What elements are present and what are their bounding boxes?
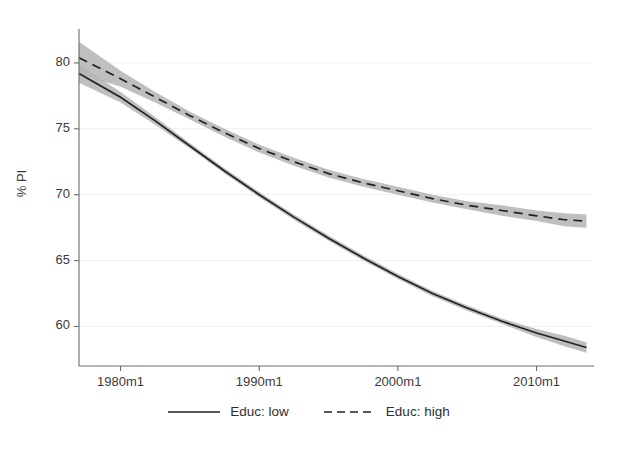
chart-legend: Educ: low Educ: high: [0, 404, 617, 419]
x-tick-label: 1980m1: [81, 374, 161, 389]
x-tick-label: 2010m1: [497, 374, 577, 389]
legend-label-educ-high: Educ: high: [386, 404, 450, 419]
legend-line-dashed-icon: [323, 407, 377, 417]
y-tick-label: 65: [36, 252, 70, 267]
y-tick-label: 80: [36, 54, 70, 69]
confidence-band-1: [79, 42, 586, 228]
legend-line-solid-icon: [167, 407, 221, 417]
series-line-1: [79, 58, 586, 221]
legend-label-educ-low: Educ: low: [230, 404, 289, 419]
legend-item-educ-low[interactable]: Educ: low: [167, 404, 289, 419]
axis-lines: [79, 29, 594, 366]
x-tick-label: 1990m1: [219, 374, 299, 389]
y-tick-label: 70: [36, 186, 70, 201]
legend-item-educ-high[interactable]: Educ: high: [323, 404, 450, 419]
y-tick-label: 75: [36, 120, 70, 135]
y-tick-label: 60: [36, 317, 70, 332]
chart-container: % PI 6065707580 1980m11990m12000m12010m1…: [0, 0, 617, 450]
confidence-bands: [79, 42, 586, 353]
x-tick-label: 2000m1: [358, 374, 438, 389]
y-axis-title: % PI: [14, 154, 29, 214]
